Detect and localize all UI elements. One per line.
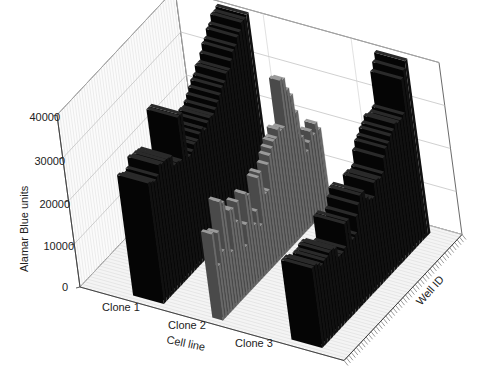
category-label-clone-3: Clone 3 bbox=[235, 337, 273, 349]
z-axis-label: Alamar Blue units bbox=[18, 185, 30, 272]
tick-label-z-10000: 10000 bbox=[43, 240, 74, 252]
category-label-clone-1: Clone 1 bbox=[102, 301, 140, 313]
x-axis-label: Cell line bbox=[166, 333, 207, 353]
tick-label-z-0: 0 bbox=[62, 281, 68, 293]
category-label-clone-2: Clone 2 bbox=[168, 319, 206, 331]
tick-label-z-30000: 30000 bbox=[34, 155, 65, 167]
tick-label-z-20000: 20000 bbox=[39, 198, 70, 210]
bar-chart-3d: Alamar Blue units 0 10000 20000 30000 40… bbox=[0, 0, 497, 372]
tick-label-z-40000: 40000 bbox=[29, 111, 60, 123]
